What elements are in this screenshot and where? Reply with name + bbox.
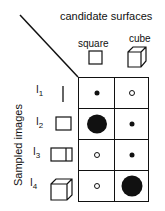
cell-r2-cube: [114, 108, 149, 140]
row-label-3: I3: [33, 146, 40, 160]
small-filled-dot: [94, 91, 99, 96]
large-filled-dot: [87, 115, 107, 134]
small-hollow-dot: [94, 152, 100, 158]
cell-r2-square: [78, 108, 115, 140]
cell-r1-square: [78, 77, 115, 109]
square-icon: [88, 50, 104, 66]
square-icon: [55, 116, 73, 132]
column-header-cube: cube: [129, 33, 151, 44]
column-header-square: square: [78, 38, 109, 49]
small-filled-dot: [129, 122, 134, 127]
cell-r3-square: [78, 139, 115, 171]
small-filled-dot: [129, 153, 134, 158]
rect-panel-icon: [50, 147, 74, 163]
cube-icon: [50, 178, 74, 202]
large-filled-dot: [121, 176, 142, 197]
small-hollow-dot: [94, 183, 100, 189]
cell-r1-cube: [114, 77, 149, 109]
cell-r3-cube: [114, 139, 149, 171]
row-label-1: I1: [36, 84, 43, 98]
column-axis-title: candidate surfaces: [60, 10, 152, 22]
cell-r4-cube: [114, 170, 149, 202]
row-label-2: I2: [36, 116, 43, 130]
row-axis-title: Sampled images: [12, 106, 24, 186]
cube-icon: [126, 44, 150, 70]
row-label-4: I4: [30, 177, 37, 191]
line-icon: [60, 85, 66, 103]
cell-r4-square: [78, 170, 115, 202]
small-hollow-dot: [129, 90, 135, 96]
